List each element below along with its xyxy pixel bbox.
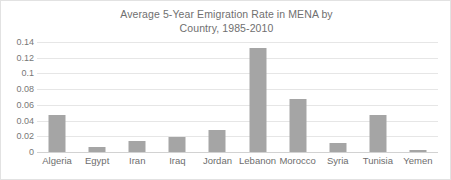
bars-layer xyxy=(37,42,438,152)
y-axis-tick-label: 0.02 xyxy=(1,132,34,141)
bar[interactable] xyxy=(49,115,66,152)
bar[interactable] xyxy=(209,130,226,152)
x-axis-tick-label: Algeria xyxy=(37,155,77,167)
x-axis-tick-label: Tunisia xyxy=(358,155,398,167)
bar-slot[interactable] xyxy=(117,42,157,152)
bar-slot[interactable] xyxy=(197,42,237,152)
bar-slot[interactable] xyxy=(358,42,398,152)
y-axis-tick-label: 0.08 xyxy=(1,85,34,94)
x-axis-tick-label: Yemen xyxy=(398,155,438,167)
y-axis-tick-label: 0.14 xyxy=(1,38,34,47)
bar-chart: Average 5-Year Emigration Rate in MENA b… xyxy=(0,0,451,180)
gridline xyxy=(37,152,438,153)
bar[interactable] xyxy=(329,143,346,152)
x-axis-tick-labels: AlgeriaEgyptIranIraqJordanLebanonMorocco… xyxy=(37,155,438,171)
bar-slot[interactable] xyxy=(398,42,438,152)
y-axis-tick-label: 0.1 xyxy=(1,69,34,78)
bar-slot[interactable] xyxy=(77,42,117,152)
y-axis-tick-label: 0 xyxy=(1,148,34,157)
bar[interactable] xyxy=(369,115,386,152)
x-axis-tick-label: Iraq xyxy=(157,155,197,167)
x-axis-tick-label: Lebanon xyxy=(238,155,278,167)
bar[interactable] xyxy=(89,147,106,152)
bar-slot[interactable] xyxy=(157,42,197,152)
bar[interactable] xyxy=(409,150,426,152)
x-axis-tick-label: Syria xyxy=(318,155,358,167)
bar[interactable] xyxy=(129,141,146,152)
bar-slot[interactable] xyxy=(37,42,77,152)
bar-slot[interactable] xyxy=(278,42,318,152)
chart-title: Average 5-Year Emigration Rate in MENA b… xyxy=(1,7,451,35)
bar[interactable] xyxy=(249,48,266,152)
x-axis-tick-label: Morocco xyxy=(278,155,318,167)
y-axis-tick-label: 0.12 xyxy=(1,53,34,62)
y-axis-tick-label: 0.06 xyxy=(1,100,34,109)
y-axis-tick-label: 0.04 xyxy=(1,116,34,125)
x-axis-tick-label: Egypt xyxy=(77,155,117,167)
x-axis-tick-label: Iran xyxy=(117,155,157,167)
bar-slot[interactable] xyxy=(238,42,278,152)
bar[interactable] xyxy=(169,137,186,152)
bar[interactable] xyxy=(289,99,306,152)
x-axis-tick-label: Jordan xyxy=(197,155,237,167)
bar-slot[interactable] xyxy=(318,42,358,152)
y-axis-tick-labels: 00.020.040.060.080.10.120.14 xyxy=(1,42,34,152)
